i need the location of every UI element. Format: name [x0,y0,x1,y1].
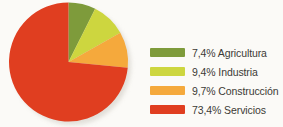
legend-item-industria: 9,4% Industria [150,62,283,81]
legend-label-servicios: 73,4% Servicios [192,104,266,116]
pie-slices [9,2,131,125]
pie-chart-graphic [9,2,131,125]
legend-swatch-servicios [150,105,185,114]
legend-swatch-agricultura [150,48,185,57]
legend-item-servicios: 73,4% Servicios [150,100,283,119]
legend-label-construccion: 9,7% Construcción [192,85,278,97]
legend-swatch-industria [150,67,185,76]
legend-label-industria: 9,4% Industria [192,66,258,78]
legend-item-construccion: 9,7% Construcción [150,81,283,100]
legend-swatch-construccion [150,86,185,95]
pie-chart-figure: 7,4% Agricultura 9,4% Industria 9,7% Con… [0,0,283,127]
legend-item-agricultura: 7,4% Agricultura [150,43,283,62]
legend-label-agricultura: 7,4% Agricultura [192,47,267,59]
chart-legend: 7,4% Agricultura 9,4% Industria 9,7% Con… [150,43,283,119]
